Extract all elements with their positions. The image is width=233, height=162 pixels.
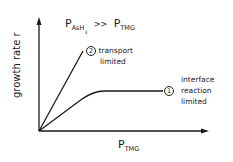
curve-1-label-line2: reaction	[181, 87, 212, 95]
title-rhs-sub: TMG	[120, 24, 135, 32]
curve-1-label-line1: interface	[181, 76, 214, 84]
y-axis-arrow-icon	[37, 17, 42, 25]
curve-1-marker: 1	[164, 86, 174, 96]
curve-1-label-line3: limited	[181, 98, 207, 106]
x-axis-label: PTMG	[118, 139, 139, 153]
curve-transport-limited	[39, 51, 83, 131]
title-lhs-sub: AsH3	[72, 24, 88, 32]
x-axis-arrow-icon	[201, 129, 209, 134]
curve-2-marker: 2	[86, 46, 96, 56]
title-lhs-main: P	[65, 17, 72, 30]
condition-title: PAsH3 >> PTMG	[65, 18, 135, 36]
curve-2-label-line1: transport	[98, 46, 133, 55]
curve-2-label-line2: limited	[100, 58, 126, 66]
title-operator: >>	[94, 20, 107, 29]
y-axis-label: growth rate r	[12, 32, 22, 98]
curve-2-label: 2 transport	[86, 46, 133, 56]
